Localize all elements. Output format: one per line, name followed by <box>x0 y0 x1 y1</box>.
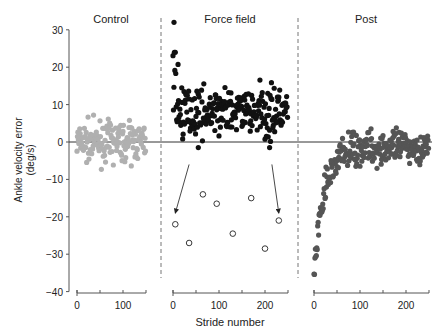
svg-text:(deg/s): (deg/s) <box>25 144 36 175</box>
scatter-chart: Control Force field Post Ankle velocity … <box>0 0 444 336</box>
svg-text:100: 100 <box>115 300 132 311</box>
svg-text:10: 10 <box>52 100 64 111</box>
svg-text:0: 0 <box>57 137 63 148</box>
y-axis: 3020100−10−20−30−40 <box>46 25 69 298</box>
svg-text:−30: −30 <box>46 249 63 260</box>
catch-trial-arrows <box>175 164 278 213</box>
svg-text:20: 20 <box>52 62 64 73</box>
svg-text:100: 100 <box>211 300 228 311</box>
svg-text:−40: −40 <box>46 287 63 298</box>
panel-title-post: Post <box>355 13 377 25</box>
svg-text:100: 100 <box>352 300 369 311</box>
svg-text:−20: −20 <box>46 212 63 223</box>
x-axes: 010001002000100200 <box>74 290 429 311</box>
panel-title-force-field: Force field <box>204 13 255 25</box>
svg-text:Ankle velocity error: Ankle velocity error <box>13 117 24 203</box>
svg-text:30: 30 <box>52 25 64 36</box>
panel-title-control: Control <box>93 13 128 25</box>
data-points <box>74 20 431 277</box>
panel-titles: Control Force field Post <box>93 13 377 25</box>
phase-dividers <box>161 18 298 278</box>
svg-text:200: 200 <box>398 300 415 311</box>
x-axis-label: Stride number <box>195 316 264 328</box>
svg-text:0: 0 <box>74 300 80 311</box>
svg-text:200: 200 <box>257 300 274 311</box>
svg-text:−10: −10 <box>46 174 63 185</box>
svg-text:0: 0 <box>311 300 317 311</box>
y-axis-label: Ankle velocity error (deg/s) <box>13 117 36 203</box>
svg-text:0: 0 <box>170 300 176 311</box>
